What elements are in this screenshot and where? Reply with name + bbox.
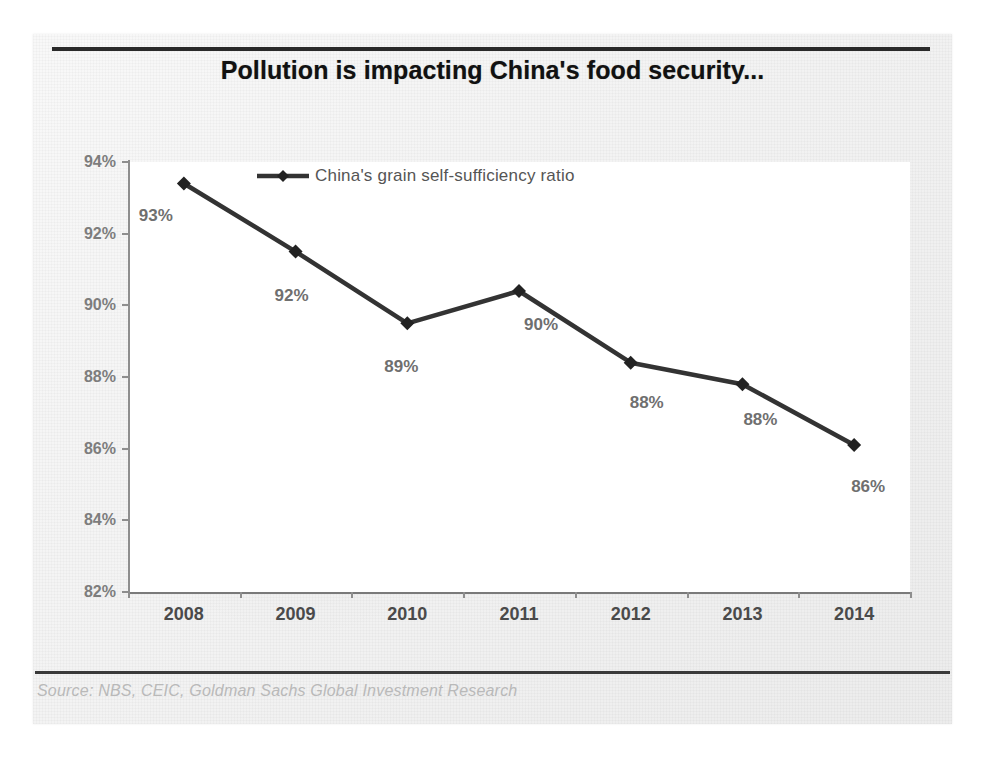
title-rule (52, 47, 930, 51)
chart-title: Pollution is impacting China's food secu… (33, 56, 952, 85)
legend-marker-swatch (255, 169, 311, 183)
x-axis-tick-mark (910, 592, 912, 598)
data-point-label: 88% (743, 410, 777, 430)
data-point-label: 86% (851, 477, 885, 497)
y-axis-tick-mark (122, 161, 129, 163)
x-axis-tick-mark (128, 592, 130, 598)
x-axis-tick-label: 2014 (834, 604, 874, 625)
x-axis-tick-label: 2013 (722, 604, 762, 625)
y-axis-tick-mark (122, 376, 129, 378)
data-point-label: 90% (524, 315, 558, 335)
slide-panel: Pollution is impacting China's food secu… (33, 34, 952, 724)
y-axis-tick-mark (122, 233, 129, 235)
data-point-label: 88% (630, 393, 664, 413)
y-axis-tick-label: 90% (84, 296, 116, 314)
y-axis-tick-mark (122, 519, 129, 521)
x-axis-tick-label: 2009 (276, 604, 316, 625)
y-axis-tick-mark (122, 304, 129, 306)
legend: China's grain self-sufficiency ratio (255, 166, 575, 186)
x-axis-tick-mark (798, 592, 800, 598)
y-axis-tick-label: 88% (84, 368, 116, 386)
y-axis-tick-label: 86% (84, 440, 116, 458)
y-axis-tick-mark (122, 448, 129, 450)
x-axis-line (128, 592, 912, 594)
diamond-line-marker-icon (255, 169, 311, 183)
legend-label: China's grain self-sufficiency ratio (315, 166, 575, 186)
data-point-label: 93% (139, 206, 173, 226)
x-axis-tick-mark (575, 592, 577, 598)
x-axis-tick-label: 2008 (164, 604, 204, 625)
data-point-label: 89% (384, 357, 418, 377)
y-axis-tick-label: 94% (84, 153, 116, 171)
x-axis-tick-mark (240, 592, 242, 598)
x-axis-tick-label: 2011 (499, 604, 538, 625)
data-point-label: 92% (275, 286, 309, 306)
x-axis-tick-label: 2010 (387, 604, 427, 625)
x-axis-tick-mark (687, 592, 689, 598)
y-axis-tick-label: 92% (84, 225, 116, 243)
x-axis-tick-mark (463, 592, 465, 598)
x-axis-tick-label: 2012 (611, 604, 651, 625)
y-axis-tick-label: 84% (84, 511, 116, 529)
y-axis-tick-label: 82% (84, 583, 116, 601)
source-rule (35, 671, 950, 674)
x-axis-tick-mark (351, 592, 353, 598)
source-text: Source: NBS, CEIC, Goldman Sachs Global … (37, 682, 517, 700)
plot-area (128, 162, 910, 592)
